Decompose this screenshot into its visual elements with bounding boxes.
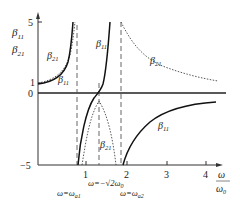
y-axis-labels: β11 β21 5 1 0 −5 xyxy=(11,17,35,171)
ytick-m5: −5 xyxy=(20,160,31,171)
label-b21-right: β21 xyxy=(149,55,161,67)
x-axis-title-den: ω0 xyxy=(216,183,226,195)
ytick-5: 5 xyxy=(28,17,33,28)
ytick-1: 1 xyxy=(30,77,35,88)
svg-text:2: 2 xyxy=(124,169,129,180)
svg-text:β21: β21 xyxy=(11,43,24,58)
label-b21-mid: β21 xyxy=(99,139,111,151)
label-b11-right: β11 xyxy=(157,120,169,132)
svg-text:β11: β11 xyxy=(11,26,24,41)
chart-canvas: β11 β21 5 1 0 −5 1 2 3 4 ω ω0 ω=−√2ω0 ω=… xyxy=(0,0,240,211)
label-b11-mid: β11 xyxy=(95,38,107,50)
label-b11-left: β11 xyxy=(57,74,69,86)
marker-wa2-label: ω=ωa2 xyxy=(120,188,144,199)
x-axis-title-num: ω xyxy=(218,169,225,180)
y-axis-arrow-icon xyxy=(36,12,40,19)
marker-sqrt2-label: ω=−√2ω0 xyxy=(88,178,123,189)
x-axis-arrow-icon xyxy=(216,163,223,167)
marker-wa1-label: ω=ωa1 xyxy=(57,188,81,199)
svg-text:4: 4 xyxy=(203,169,208,180)
ytick-0: 0 xyxy=(28,88,33,99)
marker-labels: ω=−√2ω0 ω=ωa1 ω=ωa2 xyxy=(57,178,144,199)
label-b21-left: β21 xyxy=(46,50,58,62)
svg-text:3: 3 xyxy=(164,169,169,180)
